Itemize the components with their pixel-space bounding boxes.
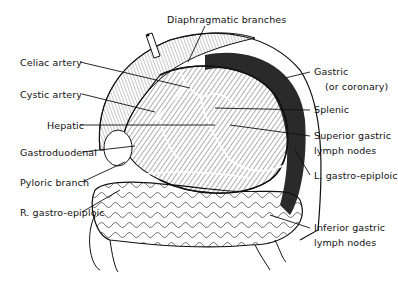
label-gastric: Gastric [314, 66, 348, 77]
label-pyloric-branch: Pyloric branch [20, 177, 89, 188]
label-diaphragmatic-branches: Diaphragmatic branches [167, 14, 286, 25]
label-superior-gastric: Superior gastric [314, 130, 391, 141]
label-cystic-artery: Cystic artery [20, 89, 82, 100]
label-gastroduodenal: Gastroduodenal [20, 147, 97, 158]
label-l-gastro-epiploic: L. gastro-epiploic [314, 170, 398, 181]
label-r-gastro-epiploic: R. gastro-epiploic [20, 207, 105, 218]
label-celiac-artery: Celiac artery [20, 57, 82, 68]
intestines [90, 182, 303, 272]
label-inferior-gastric-ln: lymph nodes [314, 237, 376, 248]
label-splenic: Splenic [314, 104, 349, 115]
label-inferior-gastric: Inferior gastric [314, 222, 385, 233]
label-superior-gastric-ln: lymph nodes [314, 145, 376, 156]
label-hepatic: Hepatic [47, 120, 84, 131]
label-gastric-coronary: (or coronary) [325, 81, 388, 92]
